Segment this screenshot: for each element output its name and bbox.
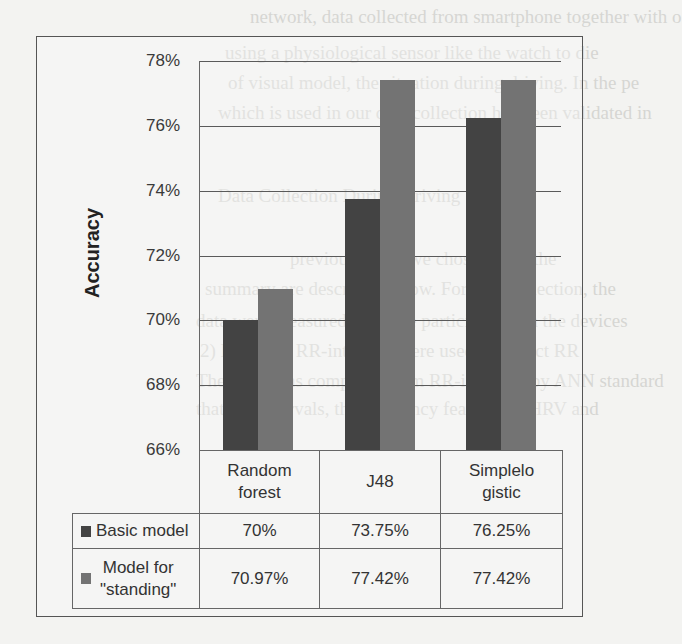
bleed-text-line: network, data collected from smartphone … — [250, 6, 682, 28]
bar-model-for-standing — [258, 289, 293, 450]
legend-label: Model for"standing" — [100, 557, 176, 601]
table-value-cell: 73.75% — [319, 513, 441, 549]
bar-model-for-standing — [380, 80, 415, 450]
gridline — [199, 61, 561, 62]
legend-swatch-icon — [81, 526, 91, 537]
bar-basic-model — [345, 199, 380, 450]
bar-basic-model — [466, 118, 501, 450]
category-label: J48 — [366, 471, 393, 493]
bar-model-for-standing — [501, 80, 536, 450]
y-tick-label: 78% — [120, 51, 180, 71]
table-header-0: Randomforest — [199, 450, 320, 514]
table-value-cell: 70% — [199, 513, 320, 549]
y-tick-label: 74% — [120, 181, 180, 201]
y-axis-label: Accuracy — [81, 208, 104, 298]
plot-left-axis — [199, 61, 200, 450]
legend-label-line: "standing" — [100, 579, 176, 601]
legend-entry-basic-model: Basic model — [72, 513, 200, 549]
table-header-1: J48 — [319, 450, 441, 514]
category-label: Simplelo — [469, 460, 534, 482]
table-header-2: Simplelogistic — [440, 450, 563, 514]
y-tick-label: 68% — [120, 375, 180, 395]
y-tick-label: 66% — [120, 440, 180, 460]
category-label: forest — [238, 482, 281, 504]
legend-entry-model-for-standing: Model for"standing" — [72, 548, 200, 609]
legend-swatch-icon — [81, 573, 91, 584]
category-label: gistic — [482, 482, 521, 504]
y-tick-label: 70% — [120, 310, 180, 330]
y-tick-label: 72% — [120, 246, 180, 266]
bar-basic-model — [223, 320, 258, 450]
table-value-cell: 76.25% — [440, 513, 563, 549]
legend-label: Basic model — [96, 520, 189, 542]
legend-label-line: Model for — [100, 557, 176, 579]
table-value-cell: 77.42% — [319, 548, 441, 609]
category-label: Random — [227, 460, 291, 482]
table-value-cell: 70.97% — [199, 548, 320, 609]
table-value-cell: 77.42% — [440, 548, 563, 609]
y-tick-label: 76% — [120, 116, 180, 136]
